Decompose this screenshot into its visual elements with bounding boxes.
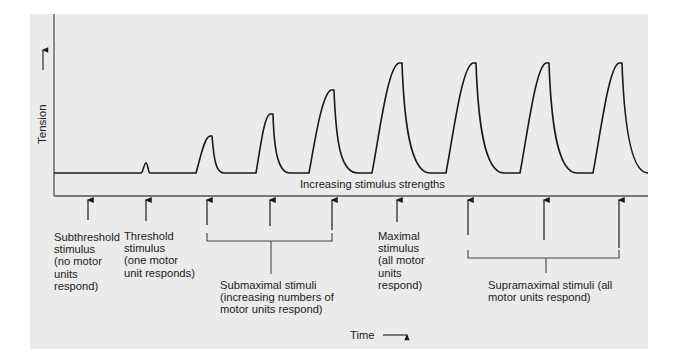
y-axis-label: Tension: [36, 70, 50, 144]
supramaximal-bracket: [468, 250, 619, 273]
label-supramaximal: Supramaximal stimuli (all motor units re…: [488, 279, 612, 303]
label-threshold: Threshold stimulus (one motor unit respo…: [124, 230, 195, 279]
submaximal-bracket: [207, 233, 332, 274]
tension-curve: [54, 63, 648, 173]
label-maximal: Maximal stimulus (all motor units respon…: [378, 230, 425, 291]
baseline-label: Increasing stimulus strengths: [300, 178, 445, 190]
x-axis-label: Time: [350, 329, 374, 341]
label-submaximal: Submaximal stimuli (increasing numbers o…: [220, 279, 334, 316]
label-subthreshold: Subthreshold stimulus (no motor units re…: [54, 231, 120, 292]
